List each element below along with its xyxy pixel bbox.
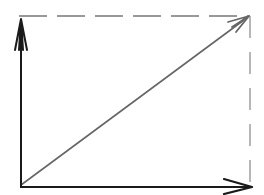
x-axis-vector — [20, 179, 252, 194]
vector-diagram — [0, 0, 264, 195]
resultant-vector — [21, 16, 249, 185]
y-axis-vector — [15, 19, 27, 188]
